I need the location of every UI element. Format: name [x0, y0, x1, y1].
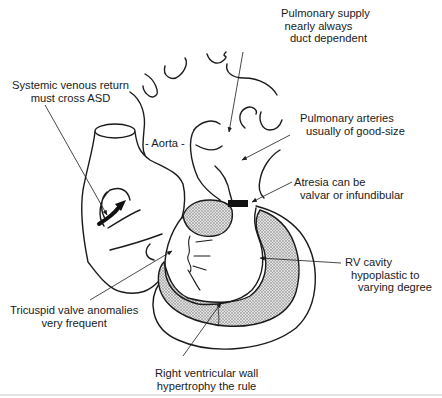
- label-line: Pulmonary arteries: [300, 112, 405, 125]
- pulmonary-artery-right: [260, 112, 282, 130]
- aorta-inner-curl: [196, 145, 222, 150]
- label-line: nearly always: [267, 20, 370, 33]
- label-pulmonary-supply: Pulmonary supply nearly always duct depe…: [281, 7, 370, 45]
- label-tricuspid: Tricuspid valve anomalies very frequent: [10, 304, 138, 329]
- aorta-curl: [194, 121, 220, 130]
- infundibulum: [183, 200, 232, 236]
- label-aorta: - Aorta -: [145, 137, 185, 149]
- atresia-plug: [228, 200, 248, 207]
- label-line: RV cavity: [345, 256, 432, 269]
- label-line: Systemic venous return: [12, 79, 129, 92]
- label-line: varying degree: [358, 281, 432, 294]
- leader-pulmonary-arteries: [242, 135, 290, 160]
- vessel-stub-2: [164, 58, 186, 78]
- label-line: Right ventricular wall: [155, 367, 258, 380]
- label-line: Tricuspid valve anomalies: [10, 304, 138, 317]
- vessel-stub-3: [207, 52, 226, 63]
- pulmonary-artery-left: [240, 107, 257, 128]
- atrial-line-3: [146, 244, 154, 260]
- vessel-stub-4: [227, 64, 277, 95]
- pulmonary-trunk-right: [259, 150, 280, 198]
- label-line: duct dependent: [287, 32, 370, 45]
- leader-atresia: [252, 182, 292, 202]
- label-line: very frequent: [10, 317, 138, 330]
- label-line: hypoplastic to: [351, 269, 432, 282]
- leader-pulmonary-supply: [229, 52, 243, 132]
- label-systemic-venous: Systemic venous return must cross ASD: [12, 79, 129, 104]
- cropped-caption-edge: [0, 394, 442, 396]
- vessel-stub-1: [143, 74, 157, 97]
- label-line: Atresia can be: [294, 176, 404, 189]
- leader-systemic-venous: [45, 105, 107, 215]
- atrial-line-2: [110, 234, 162, 250]
- label-rv-wall: Right ventricular wall hypertrophy the r…: [155, 367, 258, 392]
- label-line: Pulmonary supply: [281, 7, 370, 20]
- label-atresia: Atresia can be valvar or infundibular: [294, 176, 404, 201]
- label-line: hypertrophy the rule: [155, 380, 258, 393]
- tricuspid-chordae: [188, 236, 212, 290]
- label-line: valvar or infundibular: [300, 189, 404, 202]
- svc-opening: [95, 124, 135, 138]
- label-pulmonary-arteries: Pulmonary arteries usually of good-size: [300, 112, 405, 137]
- label-rv-cavity: RV cavity hypoplastic to varying degree: [345, 256, 432, 294]
- label-line: must cross ASD: [12, 92, 129, 105]
- right-atrium-outline: [82, 132, 158, 293]
- label-line: usually of good-size: [306, 125, 405, 138]
